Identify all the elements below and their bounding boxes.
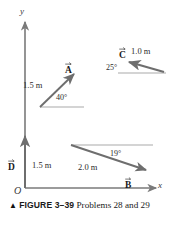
vector-d-label: D	[8, 156, 15, 174]
vector-a-arrow	[40, 74, 74, 107]
vector-d-magnitude: 1.5 m	[32, 161, 51, 170]
figure-3-39: y x O A 1.5 m 40° C 1.0 m 25°	[0, 0, 173, 232]
caption-triangle-icon: ▲	[9, 201, 17, 210]
vector-arrow-overbar-icon	[119, 47, 126, 51]
y-axis-label: y	[20, 7, 24, 16]
figure-caption: ▲ FIGURE 3–39 Problems 28 and 29	[9, 199, 169, 212]
vector-a-name: A	[65, 65, 72, 75]
vector-a-magnitude: 1.5 m	[23, 81, 42, 90]
vector-b-name: B	[125, 180, 131, 190]
vector-b-magnitude: 2.0 m	[78, 163, 97, 172]
vector-diagram	[0, 0, 173, 232]
vector-c-arrow	[129, 62, 164, 72]
vector-c-angle: 25°	[106, 64, 117, 72]
x-axis-label: x	[158, 181, 162, 190]
caption-text: Problems 28 and 29	[77, 200, 150, 210]
vector-b-angle: 19°	[110, 150, 121, 158]
vector-a-angle: 40°	[56, 94, 67, 102]
origin-label: O	[14, 186, 21, 196]
vector-c-magnitude: 1.0 m	[131, 47, 150, 56]
vector-d-name: D	[8, 162, 15, 172]
vector-c-name: C	[119, 50, 126, 60]
vector-arrow-overbar-icon	[8, 159, 15, 163]
vector-c-label: C	[119, 44, 126, 62]
caption-figure-number: FIGURE 3–39	[19, 200, 74, 210]
vector-arrow-overbar-icon	[65, 62, 72, 66]
vector-a-label: A	[65, 59, 72, 77]
vector-arrow-overbar-icon	[125, 177, 131, 181]
vector-b-label: B	[125, 174, 131, 192]
